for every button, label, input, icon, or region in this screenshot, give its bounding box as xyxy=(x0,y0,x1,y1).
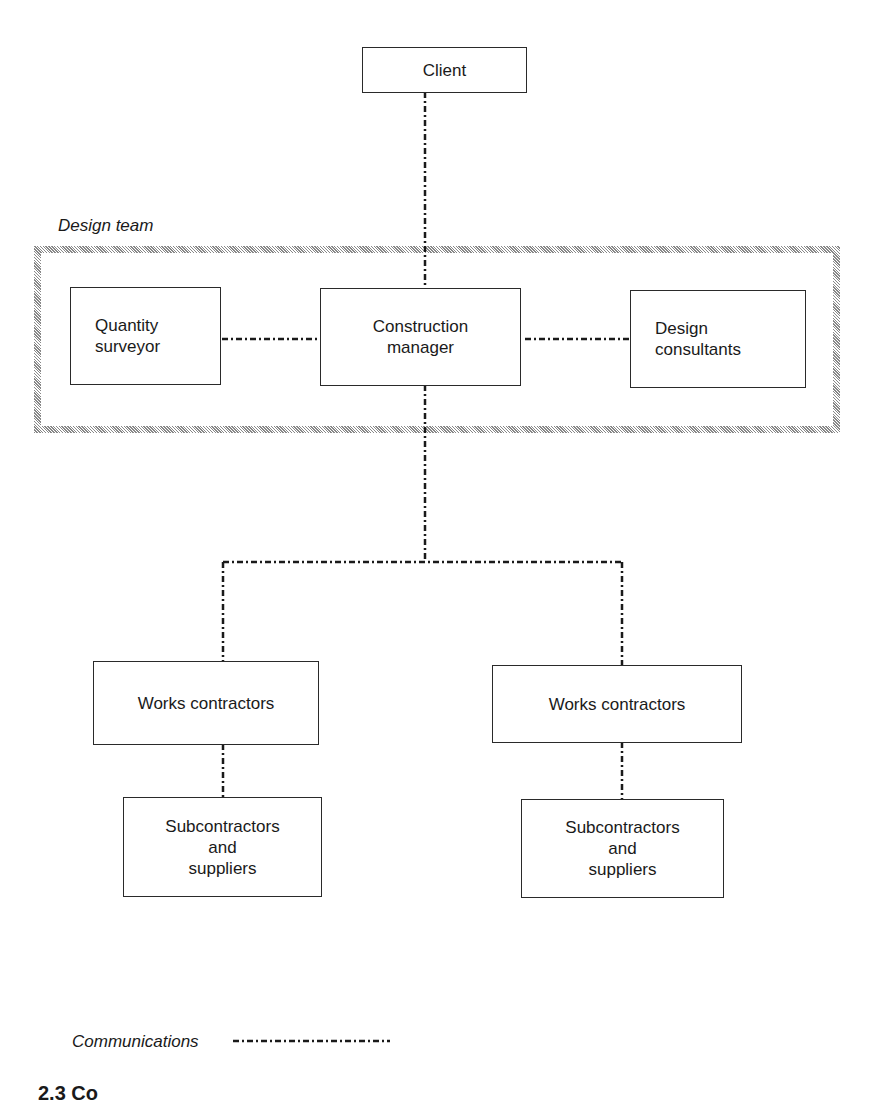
works-contractors-left-label: Works contractors xyxy=(138,693,275,714)
subcontractors-left-node: Subcontractors and suppliers xyxy=(123,797,322,897)
construction-manager-label: Construction manager xyxy=(373,316,468,358)
works-contractors-left-node: Works contractors xyxy=(93,661,319,745)
quantity-surveyor-label: Quantity surveyor xyxy=(95,315,160,357)
figure-caption: 2.3 Co xyxy=(38,1082,98,1104)
construction-manager-node: Construction manager xyxy=(320,288,521,386)
works-contractors-right-node: Works contractors xyxy=(492,665,742,743)
legend-communications-label: Communications xyxy=(72,1032,199,1052)
client-label: Client xyxy=(423,60,466,81)
client-node: Client xyxy=(362,47,527,93)
subcontractors-left-label: Subcontractors and suppliers xyxy=(165,816,279,879)
works-contractors-right-label: Works contractors xyxy=(549,694,686,715)
subcontractors-right-node: Subcontractors and suppliers xyxy=(521,799,724,898)
design-consultants-node: Design consultants xyxy=(630,290,806,388)
design-consultants-label: Design consultants xyxy=(655,318,741,360)
subcontractors-right-label: Subcontractors and suppliers xyxy=(565,817,679,880)
quantity-surveyor-node: Quantity surveyor xyxy=(70,287,221,385)
